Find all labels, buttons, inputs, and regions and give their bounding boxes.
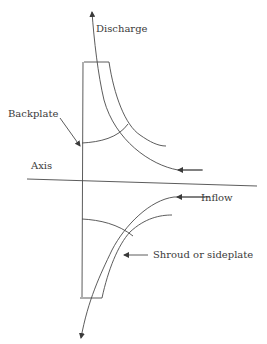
discharge-label: Discharge bbox=[96, 23, 147, 35]
axis-line bbox=[27, 179, 257, 186]
axis-label: Axis bbox=[31, 160, 52, 172]
impeller-diagram: Discharge Backplate Axis Inflow Shroud o… bbox=[0, 0, 267, 344]
lower-leading-edge-arc bbox=[82, 219, 133, 236]
backplate-leader-arrow bbox=[60, 118, 80, 146]
shroud-label: Shroud or sideplate bbox=[153, 249, 253, 261]
upper-streamline bbox=[92, 12, 203, 170]
backplate-label: Backplate bbox=[8, 108, 58, 120]
hub-line bbox=[82, 62, 83, 297]
lower-streamline bbox=[81, 197, 210, 338]
diagram-graphics bbox=[0, 0, 267, 344]
inflow-label: Inflow bbox=[201, 192, 233, 204]
